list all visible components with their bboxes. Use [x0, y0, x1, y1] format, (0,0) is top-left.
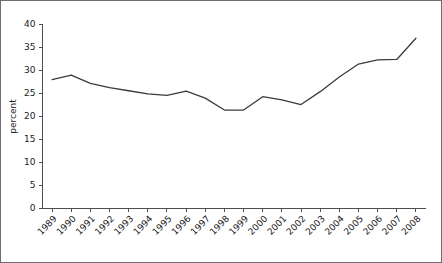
x-axis-group: 1989199019911992199319941995199619971998… — [35, 209, 425, 237]
y-axis-group: 0510152025303540 — [24, 19, 42, 213]
y-tick-label: 20 — [24, 111, 36, 121]
x-tick-label: 1994 — [131, 213, 154, 236]
x-tick-label: 2001 — [265, 214, 288, 237]
x-tick-label: 1996 — [170, 213, 193, 236]
x-tick-label: 2000 — [246, 213, 269, 236]
x-tick-label: 1997 — [189, 214, 212, 237]
y-tick-label: 35 — [24, 42, 35, 52]
x-tick-label: 2004 — [323, 213, 346, 236]
x-tick-label: 1989 — [35, 213, 58, 236]
y-tick-label: 30 — [24, 65, 36, 75]
x-tick-label: 1993 — [112, 214, 135, 237]
x-tick-label: 2006 — [361, 213, 384, 236]
x-tick-label: 2002 — [284, 214, 307, 237]
x-tick-label: 1991 — [74, 214, 97, 237]
x-tick-label: 1992 — [93, 214, 116, 237]
y-tick-label: 25 — [24, 88, 35, 98]
data-line-series — [52, 38, 416, 110]
y-axis-title: percent — [8, 99, 18, 134]
x-tick-label: 2007 — [380, 214, 403, 237]
y-tick-label: 40 — [24, 19, 36, 29]
y-tick-label: 0 — [30, 203, 36, 213]
x-tick-label: 2005 — [342, 214, 365, 237]
x-tick-label: 1999 — [227, 213, 250, 236]
y-tick-label: 10 — [24, 157, 36, 167]
line-chart-plot: 0510152025303540 19891990199119921993199… — [1, 1, 442, 263]
x-tick-label: 2008 — [399, 213, 422, 236]
x-tick-label: 1998 — [208, 213, 231, 236]
x-tick-label: 1995 — [150, 214, 173, 237]
x-tick-label: 1990 — [55, 213, 78, 236]
y-tick-label: 5 — [30, 180, 36, 190]
axis-labels-group: percent — [8, 99, 18, 134]
y-tick-label: 15 — [24, 134, 35, 144]
chart-figure: 0510152025303540 19891990199119921993199… — [0, 0, 442, 263]
data-series-group — [52, 38, 416, 110]
x-tick-label: 2003 — [304, 214, 327, 237]
